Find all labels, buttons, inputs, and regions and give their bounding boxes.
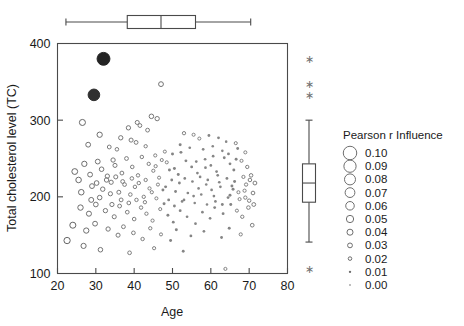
scatter-point [169, 239, 172, 242]
scatter-point [210, 189, 213, 192]
y-tick-label: 100 [30, 267, 51, 281]
x-tick-label: 50 [166, 279, 180, 293]
scatter-point [194, 222, 197, 225]
scatter-point [221, 203, 224, 206]
scatter-point [228, 227, 231, 230]
y-tick-label: 300 [30, 114, 51, 128]
chart-canvas: 20304050607080 100200300400 ∗∗∗∗ Age Tot… [0, 0, 464, 326]
x-tick-label: 20 [51, 279, 65, 293]
scatter-point [182, 250, 185, 253]
legend-label: 0.03 [365, 239, 387, 251]
scatter-point [218, 181, 221, 184]
scatter-point [186, 192, 189, 195]
legend-label: 0.04 [365, 226, 388, 238]
legend-label: 0.06 [365, 200, 387, 212]
legend-label: 0.05 [365, 213, 387, 225]
legend-label: 0.09 [365, 160, 387, 172]
scatter-point [173, 167, 176, 170]
scatter-point [172, 221, 175, 224]
legend-label: 0.10 [365, 147, 387, 159]
scatter-point [217, 136, 220, 139]
scatter-point [213, 206, 216, 209]
scatter-point [183, 177, 186, 180]
boxplot-outlier: ∗ [305, 53, 314, 65]
scatter-point [175, 228, 178, 231]
scatter-point [211, 145, 214, 148]
x-tick-label: 40 [127, 279, 141, 293]
scatter-point [173, 205, 176, 208]
scatter-point [232, 188, 235, 191]
scatter-point [226, 177, 229, 180]
scatter-point [227, 152, 230, 155]
scatter-point [168, 169, 171, 172]
scatter-point [203, 230, 206, 233]
scatter-point [235, 158, 238, 161]
scatter-point [204, 158, 207, 161]
y-tick-label: 200 [30, 190, 51, 204]
scatter-point [205, 183, 208, 186]
scatter-point [222, 212, 225, 215]
scatter-point [196, 172, 199, 175]
scatter-point [188, 146, 191, 149]
scatter-point [219, 186, 222, 189]
scatter-point [200, 193, 203, 196]
scatter-point [201, 211, 204, 214]
scatter-point [191, 180, 194, 183]
x-tick-label: 30 [89, 279, 103, 293]
scatter-point [179, 209, 182, 212]
scatter-point [177, 173, 180, 176]
scatter-point [229, 162, 232, 165]
boxplot-outlier: ∗ [305, 89, 314, 101]
scatter-point [212, 155, 215, 158]
x-tick-label: 60 [204, 279, 218, 293]
scatter-point [206, 179, 209, 182]
scatter-point [223, 156, 226, 159]
scatter-point [192, 195, 195, 198]
scatter-point [170, 179, 173, 182]
scatter-point [197, 187, 200, 190]
scatter-point [190, 166, 193, 169]
scatter-point [220, 236, 223, 239]
scatter-point [163, 202, 166, 205]
scatter-point [230, 185, 233, 188]
scatter-point [199, 176, 202, 179]
x-axis-label: Age [161, 305, 183, 319]
scatter-point [207, 134, 210, 137]
legend-title: Pearson r Influence [343, 129, 443, 141]
legend-label: 0.07 [365, 187, 387, 199]
scatter-point [195, 160, 198, 163]
scatter-point [209, 217, 212, 220]
scatter-point [171, 152, 174, 155]
scatter-point [186, 215, 189, 218]
scatter-point [206, 203, 209, 206]
scatter-point [209, 164, 212, 167]
scatter-point [164, 185, 167, 188]
scatter-point [215, 170, 218, 173]
x-tick-label: 80 [281, 279, 295, 293]
scatter-point [167, 198, 170, 201]
scatter-point [179, 151, 182, 154]
scatter-point [184, 159, 187, 162]
legend-label: 0.08 [365, 173, 387, 185]
chart-background [0, 0, 464, 326]
scatter-point [161, 188, 164, 191]
scatter-point [166, 214, 169, 217]
scatter-point [202, 148, 205, 151]
legend-label: 0.02 [365, 253, 387, 265]
scatter-point [236, 147, 239, 150]
scatter-point [213, 195, 216, 198]
legend-label: 0.00 [365, 279, 387, 291]
scatter-plot-figure: 20304050607080 100200300400 ∗∗∗∗ Age Tot… [0, 0, 464, 326]
boxplot-outlier: ∗ [305, 263, 314, 275]
legend-label: 0.01 [365, 266, 387, 278]
scatter-point [233, 180, 236, 183]
scatter-point [216, 174, 219, 177]
scatter-point [178, 182, 181, 185]
scatter-point [179, 143, 182, 146]
scatter-point [214, 200, 217, 203]
scatter-point [174, 190, 177, 193]
y-axis-label: Total cholesterol level (TC) [5, 84, 19, 232]
scatter-point [204, 166, 207, 169]
legend-marker [349, 284, 351, 286]
scatter-point [229, 194, 232, 197]
